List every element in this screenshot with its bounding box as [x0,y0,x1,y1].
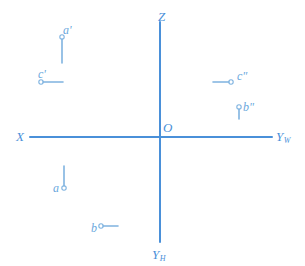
point-label-c-double-prime: c" [237,70,247,82]
point-label-b: b [91,222,97,234]
axis-label-z: Z [158,10,165,23]
axis-label-yh-subscript: H [160,254,166,263]
point-label-a-prime: a' [63,24,72,36]
projection-diagram-canvas [0,0,305,266]
axis-label-x: X [16,130,24,143]
axes-group [30,22,272,242]
point-label-c-prime: c' [38,68,46,80]
point-label-b-double-prime: b" [243,101,254,113]
point-markers-group [39,35,241,228]
axis-label-yw: YW [276,130,290,145]
axis-label-yw-subscript: W [284,136,291,145]
axis-label-yh: YH [152,248,166,263]
point-label-a: a [53,182,59,194]
origin-label-o: O [163,121,172,134]
